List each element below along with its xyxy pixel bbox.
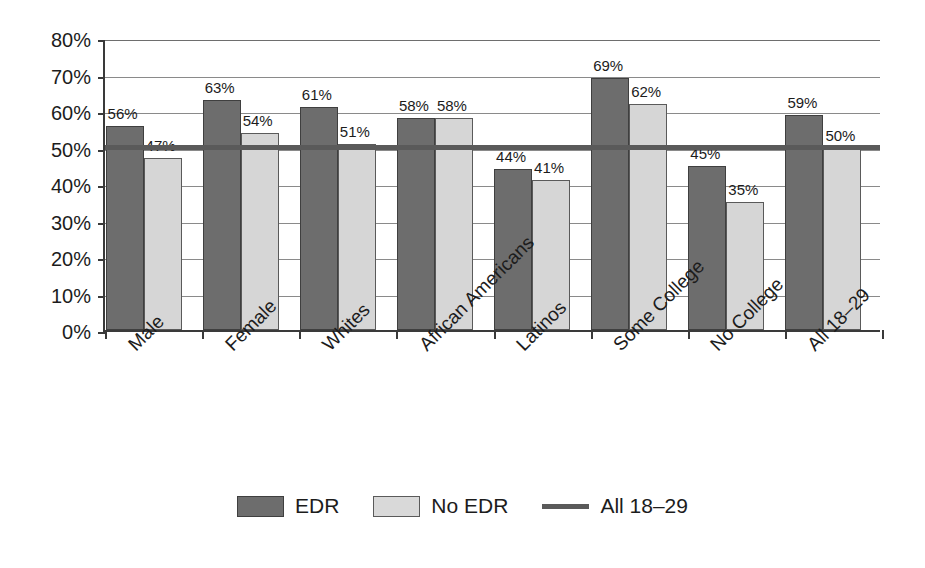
- chart-legend: EDRNo EDRAll 18–29: [0, 494, 925, 518]
- legend-swatch-icon: [237, 496, 284, 517]
- y-axis-tick-label: 10%: [15, 284, 91, 307]
- bar-value-label: 59%: [787, 95, 817, 110]
- x-tick-mark: [688, 330, 690, 339]
- legend-label: EDR: [295, 494, 339, 518]
- y-axis-tick-label: 50%: [15, 138, 91, 161]
- legend-label: No EDR: [431, 494, 508, 518]
- y-tick-mark: [98, 259, 105, 261]
- x-tick-mark: [202, 330, 204, 339]
- y-axis-tick-label: 70%: [15, 65, 91, 88]
- legend-line-marker-icon: [542, 504, 589, 509]
- legend-item[interactable]: No EDR: [373, 494, 508, 518]
- y-tick-mark: [98, 113, 105, 115]
- legend-label: All 18–29: [600, 494, 688, 518]
- bar-value-label: 50%: [825, 128, 855, 143]
- y-tick-mark: [98, 223, 105, 225]
- y-tick-mark: [98, 40, 105, 42]
- y-tick-mark: [98, 150, 105, 152]
- y-tick-mark: [98, 186, 105, 188]
- legend-item[interactable]: EDR: [237, 494, 339, 518]
- y-axis-tick-label: 0%: [15, 321, 91, 344]
- y-axis-tick-label: 30%: [15, 211, 91, 234]
- reference-line-all-18-29: [105, 145, 880, 150]
- x-tick-mark: [494, 330, 496, 339]
- bar-chart: 0%10%20%30%40%50%60%70%80% 56%47%63%54%6…: [0, 0, 925, 568]
- legend-item[interactable]: All 18–29: [542, 494, 688, 518]
- x-tick-mark: [882, 330, 884, 339]
- y-axis-tick-label: 40%: [15, 175, 91, 198]
- y-axis-tick-label: 20%: [15, 248, 91, 271]
- y-tick-mark: [98, 332, 105, 334]
- x-tick-mark: [396, 330, 398, 339]
- y-axis-tick-label: 80%: [15, 29, 91, 52]
- x-tick-mark: [299, 330, 301, 339]
- y-tick-mark: [98, 77, 105, 79]
- y-axis-tick-label: 60%: [15, 102, 91, 125]
- x-tick-mark: [785, 330, 787, 339]
- x-tick-mark: [591, 330, 593, 339]
- legend-swatch-icon: [373, 496, 420, 517]
- y-tick-mark: [98, 296, 105, 298]
- x-tick-mark: [105, 330, 107, 339]
